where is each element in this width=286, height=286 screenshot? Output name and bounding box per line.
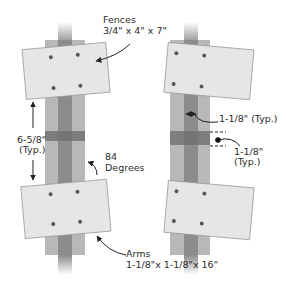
arms-leader-arrow [97,236,126,255]
diagram-canvas: Fences 3/4" x 4" x 7" 6-5/8" (Typ.) 84 D… [0,0,286,286]
right-bottom-fence [164,180,254,239]
fences-title: Fences [103,14,136,25]
arm-width-label: 1-1/8" (Typ.) [219,113,278,124]
left-top-fence [22,42,110,99]
right-top-fence [164,42,254,99]
right-cross-band [170,131,210,145]
band-width-leader [218,139,240,146]
left-cross-band [45,131,85,141]
band-width-note: (Typ.) [234,156,260,167]
spacing-note: (Typ.) [19,144,45,155]
angle-value: 84 [105,151,117,162]
arms-title: Arms [126,248,150,259]
left-bottom-fence [21,179,111,238]
band-dimension-dot-icon [215,137,221,143]
arms-dims: 1-1/8"x 1-1/8"x 16" [126,259,218,270]
fences-dims: 3/4" x 4" x 7" [103,25,167,36]
left-arm-bottom-stub [58,255,72,275]
angle-unit: Degrees [105,162,145,173]
angle-leader-arrow [88,162,97,175]
